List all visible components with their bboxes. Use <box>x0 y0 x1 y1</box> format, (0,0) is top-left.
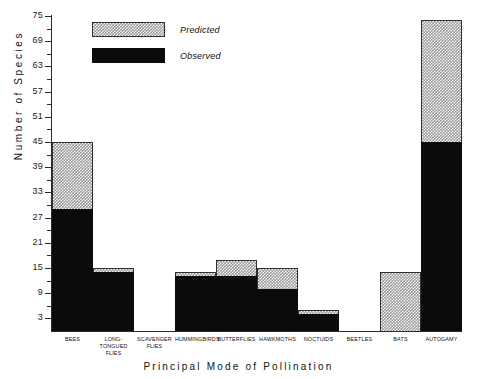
y-tick-label-27: 27 <box>21 213 43 222</box>
x-tick-label-7: BEETLES <box>339 336 380 357</box>
y-tick-label-3: 3 <box>21 313 43 322</box>
x-tick-label-2: SCAVENGERFLIES <box>134 336 175 357</box>
segment-observed <box>93 272 134 331</box>
segment-predicted <box>380 272 421 331</box>
segment-predicted <box>421 20 462 142</box>
y-tick-label-75: 75 <box>21 11 43 20</box>
x-axis-tick-labels: BEESLONG-TONGUEDFLIESSCAVENGERFLIESHUMMI… <box>52 336 462 357</box>
x-label-line1: BATS <box>393 336 407 342</box>
bar-hawkmoths[interactable] <box>257 16 298 331</box>
x-tick-label-6: NOCTUIDS <box>298 336 339 357</box>
y-tick-label-51: 51 <box>21 112 43 121</box>
x-tick-label-1: LONG-TONGUEDFLIES <box>93 336 134 357</box>
bar-scavenger-flies[interactable] <box>134 16 175 331</box>
x-label-line1: BEETLES <box>347 336 372 342</box>
bar-butterflies[interactable] <box>216 16 257 331</box>
bar-noctuids[interactable] <box>298 16 339 331</box>
x-label-line2: FLIES <box>106 350 122 356</box>
x-label-line1: LONG-TONGUED <box>100 336 128 349</box>
x-tick-label-0: BEES <box>52 336 93 357</box>
x-axis-title: Principal Mode of Pollination <box>0 361 477 372</box>
bar-bees[interactable] <box>52 16 93 331</box>
x-axis-line <box>51 331 462 332</box>
y-tick-label-33: 33 <box>21 187 43 196</box>
segment-observed <box>216 276 257 331</box>
bar-hummingbirds[interactable] <box>175 16 216 331</box>
x-label-line1: NOCTUIDS <box>304 336 333 342</box>
y-tick-label-63: 63 <box>21 61 43 70</box>
x-label-line1: SCAVENGER <box>137 336 172 342</box>
x-tick-label-5: HAWKMOTHS <box>257 336 298 357</box>
x-tick-label-4: BUTTERFLIES <box>216 336 257 357</box>
x-label-line1: BEES <box>65 336 80 342</box>
segment-predicted <box>257 268 298 289</box>
x-label-line1: HUMMINGBIRDS <box>175 336 220 342</box>
x-tick-label-3: HUMMINGBIRDS <box>175 336 216 357</box>
y-axis-tick-labels: 756963575145393327211593 <box>0 0 43 379</box>
y-tick-label-21: 21 <box>21 238 43 247</box>
bar-series-container <box>52 16 462 331</box>
y-tick-label-69: 69 <box>21 36 43 45</box>
segment-observed <box>298 314 339 331</box>
y-tick-label-57: 57 <box>21 87 43 96</box>
x-label-line1: BUTTERFLIES <box>217 336 255 342</box>
bar-long-tongued-flies[interactable] <box>93 16 134 331</box>
y-tick-label-45: 45 <box>21 137 43 146</box>
y-tick-label-39: 39 <box>21 162 43 171</box>
chart-figure: Number of Species 7569635751453933272115… <box>0 0 477 379</box>
segment-observed <box>257 289 298 331</box>
x-label-line1: AUTOGAMY <box>426 336 458 342</box>
y-tick-label-15: 15 <box>21 263 43 272</box>
segment-observed <box>421 142 462 331</box>
x-tick-label-8: BATS <box>380 336 421 357</box>
segment-observed <box>52 209 93 331</box>
x-label-line2: FLIES <box>147 343 163 349</box>
segment-observed <box>175 276 216 331</box>
x-tick-label-9: AUTOGAMY <box>421 336 462 357</box>
bar-autogamy[interactable] <box>421 16 462 331</box>
bar-beetles[interactable] <box>339 16 380 331</box>
segment-predicted <box>52 142 93 209</box>
x-label-line1: HAWKMOTHS <box>259 336 296 342</box>
y-tick-label-9: 9 <box>21 288 43 297</box>
segment-predicted <box>216 260 257 277</box>
bar-bats[interactable] <box>380 16 421 331</box>
